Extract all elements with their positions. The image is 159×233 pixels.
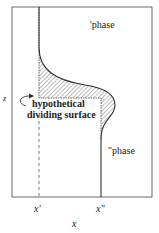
z-axis-label: z [3,94,6,104]
dividing-surface-label-line2: dividing surface [27,110,96,120]
bottom-phase-label: "phase [108,146,135,156]
x-double-prime-label: x" [96,204,105,214]
x-prime-label: x' [34,204,41,214]
top-phase-label: 'phase [90,20,115,30]
x-axis-label: x [72,219,76,229]
dividing-surface-label-line1: hypothetical [32,99,85,109]
